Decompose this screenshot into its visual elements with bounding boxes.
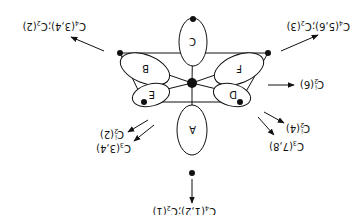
symmetry-diagram: C A B F E D C4(1,2);C2(1) C4(3,4);C2(2) … — [0, 0, 356, 215]
arrow-a3 — [281, 35, 318, 51]
vertex-dot — [265, 50, 271, 56]
node-label-f: F — [236, 63, 242, 74]
label-a8: C3(3,4) — [96, 141, 131, 154]
arrow-a8 — [134, 125, 154, 141]
vertex-dot — [117, 50, 123, 56]
node-label-c: C — [189, 36, 196, 47]
label-a2: C4(3,4);C2(2) — [22, 19, 86, 32]
label-a1: C4(1,2);C2(1) — [152, 204, 216, 215]
node-label-d: D — [229, 89, 237, 100]
label-a5: Ci2(4) — [286, 121, 310, 135]
label-a6: C3(7,8) — [269, 139, 304, 152]
vertex-dot — [190, 16, 196, 22]
center-dot — [187, 78, 197, 88]
arrow-a2 — [71, 37, 104, 51]
node-label-a: A — [189, 124, 196, 135]
label-a7: Ci2(2) — [100, 127, 124, 141]
vertex-dot — [189, 170, 195, 176]
vertex-dot — [141, 99, 147, 105]
node-label-e: E — [149, 89, 155, 100]
arrow-a7 — [128, 120, 148, 132]
label-a4: Ci2(6) — [300, 77, 324, 91]
label-a3: C4(5,6);C2(3) — [286, 19, 350, 32]
node-label-b: B — [142, 63, 149, 74]
arrow-a6 — [258, 117, 274, 135]
arrow-a5 — [264, 112, 284, 123]
